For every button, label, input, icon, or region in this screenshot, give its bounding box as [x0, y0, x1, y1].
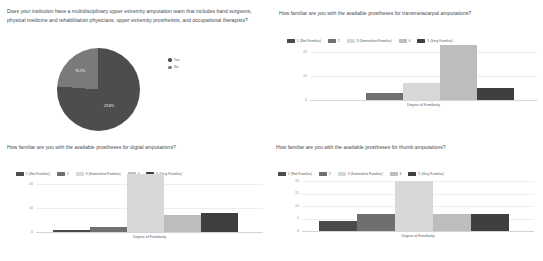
legend-label-1: 1 (Not Familiar): [288, 172, 312, 176]
legend-swatch-3: [76, 172, 84, 176]
legend-swatch-2: [57, 172, 65, 176]
legend-item-3[interactable]: 3 (Somewhat Familiar): [338, 172, 383, 176]
legend-item-1[interactable]: 1 (Not Familiar): [287, 39, 321, 43]
y-axis-tick-5: 5: [287, 216, 299, 220]
panel-transmetacarpal-bar: How familiar are you with the available …: [272, 0, 543, 131]
bar-category-1[interactable]: [53, 230, 90, 232]
y-axis-tick-15: 15: [287, 191, 299, 195]
y-axis-tick-0: 0: [287, 229, 299, 233]
x-axis-label: Degree of Familiarity: [310, 103, 537, 107]
legend-label-2: 2: [67, 172, 69, 176]
x-axis-line: [36, 232, 263, 233]
bar-category-3[interactable]: [403, 83, 440, 100]
legend-item-2[interactable]: 2: [57, 172, 69, 176]
gridline: [310, 76, 537, 77]
legend-swatch-2: [328, 39, 336, 43]
legend-swatch-1: [16, 172, 24, 176]
legend-item-no[interactable]: No: [168, 65, 180, 69]
bar-category-2[interactable]: [90, 227, 127, 232]
x-axis-line: [310, 100, 537, 101]
x-axis-label: Degree of Familiarity: [302, 234, 534, 238]
legend-swatch-5: [417, 39, 425, 43]
legend-label-3: 3 (Somewhat Familiar): [356, 39, 391, 43]
legend-label-1: 1 (Not Familiar): [26, 172, 50, 176]
pie-chart-team: 76.2% 23.8%: [57, 48, 140, 131]
plot-area-thumb: 05101520Degree of Familiarity: [284, 179, 534, 245]
x-axis-label: Degree of Familiarity: [36, 235, 263, 239]
legend-swatch-4: [399, 39, 407, 43]
legend-item-4[interactable]: 4: [399, 39, 411, 43]
legend-item-5[interactable]: 5 (Very Familiar): [417, 39, 452, 43]
y-axis-tick-10: 10: [295, 74, 307, 78]
y-axis-tick-0: 0: [21, 230, 33, 234]
legend-label-yes: Yes: [174, 58, 180, 62]
pie-slice-label-no: 23.8%: [104, 104, 114, 108]
y-axis-tick-0: 0: [295, 98, 307, 102]
legend-label-2: 2: [338, 39, 340, 43]
legend-item-2[interactable]: 2: [319, 172, 331, 176]
panel-title-thumb: How familiar are you with the available …: [276, 143, 534, 152]
legend-swatch-yes: [168, 58, 172, 62]
legend-item-1[interactable]: 1 (Not Familiar): [16, 172, 50, 176]
bar-category-4[interactable]: [440, 45, 477, 100]
y-axis-tick-20: 20: [287, 179, 299, 183]
bar-category-2[interactable]: [366, 93, 403, 100]
bar-category-1[interactable]: [319, 221, 357, 231]
pie-circle: 76.2% 23.8%: [57, 48, 140, 131]
legend-transmetacarpal: 1 (Not Familiar)23 (Somewhat Familiar)45…: [287, 39, 453, 43]
legend-item-yes[interactable]: Yes: [168, 58, 180, 62]
y-axis-tick-20: 20: [21, 182, 33, 186]
panel-title-transmetacarpal: How familiar are you with the available …: [279, 9, 537, 18]
bar-category-5[interactable]: [477, 88, 514, 100]
legend-swatch-5: [408, 172, 416, 176]
legend-swatch-1: [287, 39, 295, 43]
bar-category-3[interactable]: [127, 174, 164, 232]
legend-item-3[interactable]: 3 (Somewhat Familiar): [347, 39, 392, 43]
legend-label-3: 3 (Somewhat Familiar): [85, 172, 120, 176]
bar-category-3[interactable]: [395, 181, 433, 231]
y-axis-tick-10: 10: [287, 204, 299, 208]
legend-label-4: 4: [408, 39, 410, 43]
panel-thumb-bar: How familiar are you with the available …: [272, 135, 543, 261]
legend-swatch-4: [390, 172, 398, 176]
legend-swatch-no: [168, 66, 172, 70]
y-axis-tick-10: 10: [21, 206, 33, 210]
legend-label-5: 5 (Very Familiar): [418, 172, 444, 176]
figure-sheet: Does your institution have a multidiscip…: [0, 0, 543, 261]
bar-category-4[interactable]: [433, 214, 471, 232]
panel-digital-bar: How familiar are you with the available …: [0, 135, 271, 261]
panel-title-team: Does your institution have a multidiscip…: [7, 7, 265, 24]
legend-swatch-1: [278, 172, 286, 176]
legend-item-3[interactable]: 3 (Somewhat Familiar): [76, 172, 121, 176]
legend-label-3: 3 (Somewhat Familiar): [347, 172, 382, 176]
bar-category-4[interactable]: [164, 215, 201, 232]
bar-category-5[interactable]: [201, 213, 238, 232]
legend-label-2: 2: [329, 172, 331, 176]
legend-thumb: 1 (Not Familiar)23 (Somewhat Familiar)45…: [278, 172, 444, 176]
legend-item-1[interactable]: 1 (Not Familiar): [278, 172, 312, 176]
legend-item-2[interactable]: 2: [328, 39, 340, 43]
bar-category-5[interactable]: [471, 214, 509, 232]
legend-item-5[interactable]: 5 (Very Familiar): [408, 172, 443, 176]
legend-label-5: 5 (Very Familiar): [427, 39, 453, 43]
legend-swatch-2: [319, 172, 327, 176]
legend-swatch-3: [338, 172, 346, 176]
legend-label-no: No: [174, 65, 178, 69]
pie-legend-team: Yes No: [168, 58, 180, 73]
legend-label-1: 1 (Not Familiar): [297, 39, 321, 43]
gridline: [310, 52, 537, 53]
plot-area-transmetacarpal: 01020Degree of Familiarity: [292, 50, 537, 112]
bar-category-2[interactable]: [357, 214, 395, 232]
legend-item-4[interactable]: 4: [390, 172, 402, 176]
x-axis-line: [302, 231, 534, 232]
plot-area-digital: 01020Degree of Familiarity: [18, 182, 263, 244]
pie-slice-label-yes: 76.2%: [75, 69, 85, 73]
panel-title-digital: How familiar are you with the available …: [7, 143, 265, 152]
y-axis-tick-20: 20: [295, 50, 307, 54]
panel-team-pie: Does your institution have a multidiscip…: [0, 0, 272, 131]
legend-swatch-3: [347, 39, 355, 43]
legend-label-4: 4: [399, 172, 401, 176]
